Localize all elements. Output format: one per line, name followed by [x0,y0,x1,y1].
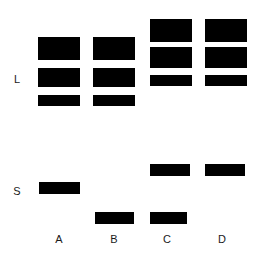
gel-band-lane-d-l-2 [205,47,247,68]
gel-band-lane-c-s-2 [150,212,187,224]
gel-band-lane-b-l-2 [93,68,135,87]
gel-band-lane-a-l-2 [38,68,80,87]
gel-band-lane-a-l-3 [38,95,80,106]
lane-label-b: B [100,234,128,245]
gel-band-lane-c-l-2 [150,47,192,68]
gel-band-lane-b-s-1 [95,212,134,224]
gel-band-lane-b-l-3 [93,95,135,106]
row-label-s: S [10,186,24,197]
row-label-l: L [10,74,24,85]
gel-band-lane-a-s-1 [39,182,80,194]
lane-label-c: C [153,234,181,245]
lane-label-d: D [208,234,236,245]
gel-band-lane-d-l-3 [205,75,247,86]
gel-band-lane-b-l-1 [93,37,135,60]
gel-band-lane-c-l-1 [150,19,192,42]
gel-band-lane-d-l-1 [205,19,247,42]
lane-label-a: A [45,234,73,245]
gel-band-lane-a-l-1 [38,37,80,60]
gel-band-lane-d-s-1 [205,164,245,176]
gel-electrophoresis-diagram: LS ABCD [0,0,263,258]
gel-band-lane-c-s-1 [150,164,190,176]
gel-band-lane-c-l-3 [150,75,192,86]
